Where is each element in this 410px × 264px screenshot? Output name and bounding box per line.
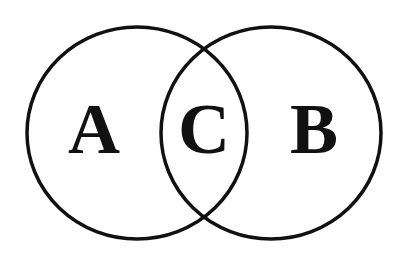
label-a: A [68, 89, 120, 169]
label-c: C [178, 89, 230, 169]
venn-diagram: A C B [0, 0, 410, 264]
label-b: B [290, 89, 338, 169]
